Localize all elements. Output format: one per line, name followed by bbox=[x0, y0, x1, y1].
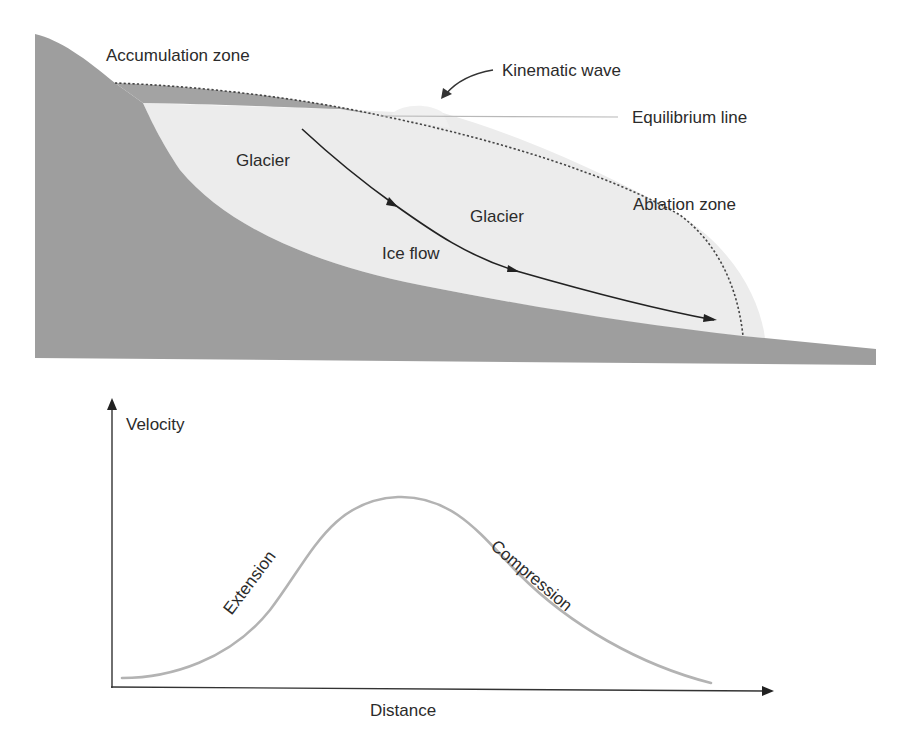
y-axis-arrowhead-icon bbox=[107, 398, 117, 410]
label-accumulation-zone: Accumulation zone bbox=[106, 46, 250, 65]
label-ablation-zone: Ablation zone bbox=[633, 195, 736, 214]
kinematic-wave-pointer-line bbox=[446, 70, 493, 94]
label-equilibrium-line: Equilibrium line bbox=[632, 108, 747, 127]
velocity-curve bbox=[122, 497, 711, 683]
y-axis-label: Velocity bbox=[126, 415, 185, 434]
x-axis-label: Distance bbox=[370, 701, 436, 720]
velocity-distance-chart: Velocity Distance Extension Compression bbox=[107, 398, 774, 720]
x-axis bbox=[111, 687, 764, 691]
label-kinematic-wave: Kinematic wave bbox=[502, 61, 621, 80]
glacier-kinematic-wave-figure: Accumulation zone Kinematic wave Equilib… bbox=[0, 0, 908, 752]
label-glacier-lower: Glacier bbox=[470, 207, 524, 226]
x-axis-arrowhead-icon bbox=[762, 686, 774, 696]
label-ice-flow: Ice flow bbox=[382, 244, 440, 263]
label-glacier-upper: Glacier bbox=[236, 151, 290, 170]
glacier-cross-section: Accumulation zone Kinematic wave Equilib… bbox=[35, 34, 876, 365]
annotation-compression: Compression bbox=[487, 536, 576, 615]
